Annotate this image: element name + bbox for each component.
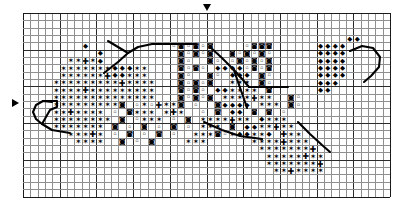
stitch-cell-cross-plus-stitch: ✚ (171, 109, 177, 115)
stitch-cell-filled-diamond-stitch: ◆ (237, 65, 243, 71)
grid-line-horizontal (23, 20, 390, 21)
stitch-cell-open-star-stitch: ✶ (83, 65, 89, 71)
grid-line-vertical (207, 13, 208, 197)
stitch-cell-filled-diamond-stitch: ◆ (237, 73, 243, 79)
stitch-cell-open-square-stitch: ▫ (237, 51, 243, 57)
stitch-cell-open-square-stitch: ▫ (244, 58, 250, 64)
stitch-cell-filled-diamond-stitch: ◆ (252, 124, 258, 130)
stitch-cell-open-star-stitch: ✶ (90, 95, 96, 101)
stitch-cell-cross-plus-stitch: ✚ (230, 117, 236, 123)
stitch-cell-open-square-stitch: ▫ (127, 124, 133, 130)
stitch-cell-filled-diamond-stitch: ◆ (230, 73, 236, 79)
stitch-cell-filled-diamond-stitch: ◆ (127, 65, 133, 71)
stitch-cell-open-star-stitch: ✶ (266, 139, 272, 145)
stitch-cell-open-star-stitch: ✶ (185, 139, 191, 145)
stitch-cell-filled-diamond-stitch: ◆ (266, 131, 272, 137)
stitch-cell-open-star-stitch: ✶ (259, 102, 265, 108)
stitch-cell-hatched-block-stitch: ◙ (193, 95, 199, 101)
stitch-cell-hatched-block-stitch: ◙ (208, 73, 214, 79)
stitch-cell-open-star-stitch: ✶ (281, 146, 287, 152)
stitch-cell-filled-diamond-stitch: ◆ (318, 51, 324, 57)
stitch-cell-filled-diamond-stitch: ◆ (222, 102, 228, 108)
stitch-cell-open-star-stitch: ✶ (119, 87, 125, 93)
stitch-cell-open-star-stitch: ✶ (68, 65, 74, 71)
stitch-cell-open-square-stitch: ▫ (185, 51, 191, 57)
stitch-cell-cross-plus-stitch: ✚ (274, 124, 280, 130)
stitch-cell-filled-diamond-stitch: ◆ (332, 65, 338, 71)
stitch-cell-open-star-stitch: ✶ (75, 80, 81, 86)
stitch-cell-open-star-stitch: ✶ (68, 73, 74, 79)
stitch-cell-open-square-stitch: ▫ (281, 109, 287, 115)
stitch-cell-hatched-block-stitch: ◙ (208, 58, 214, 64)
stitch-cell-filled-diamond-stitch: ◆ (97, 51, 103, 57)
stitch-cell-open-star-stitch: ✶ (112, 95, 118, 101)
stitch-cell-open-star-stitch: ✶ (230, 87, 236, 93)
stitch-cell-open-star-stitch: ✶ (61, 109, 67, 115)
stitch-cell-hatched-block-stitch: ◙ (193, 80, 199, 86)
stitch-cell-open-star-stitch: ✶ (303, 168, 309, 174)
stitch-cell-hatched-block-stitch: ◙ (208, 51, 214, 57)
stitch-cell-open-star-stitch: ✶ (288, 153, 294, 159)
stitch-cell-filled-diamond-stitch: ◆ (340, 51, 346, 57)
stitch-cell-open-star-stitch: ✶ (259, 146, 265, 152)
stitch-cell-open-star-stitch: ✶ (75, 109, 81, 115)
stitch-cell-filled-diamond-stitch: ◆ (332, 73, 338, 79)
stitch-cell-open-star-stitch: ✶ (288, 131, 294, 137)
stitch-cell-hatched-block-stitch: ◙ (259, 80, 265, 86)
stitch-cell-filled-diamond-stitch: ◆ (237, 102, 243, 108)
stitch-cell-cross-plus-stitch: ✚ (90, 131, 96, 137)
stitch-cell-open-square-stitch: ▫ (222, 131, 228, 137)
stitch-cell-hatched-block-stitch: ◙ (127, 109, 133, 115)
stitch-cell-open-square-stitch: ▫ (259, 65, 265, 71)
stitch-cell-filled-diamond-stitch: ◆ (112, 73, 118, 79)
stitch-cell-open-star-stitch: ✶ (105, 80, 111, 86)
grid-line-vertical (184, 13, 185, 197)
stitch-cell-filled-diamond-stitch: ◆ (230, 109, 236, 115)
stitch-cell-cross-plus-stitch: ✚ (318, 161, 324, 167)
stitch-cell-open-star-stitch: ✶ (61, 87, 67, 93)
stitch-cell-open-square-stitch: ▫ (112, 109, 118, 115)
stitch-cell-open-star-stitch: ✶ (134, 65, 140, 71)
stitch-cell-filled-diamond-stitch: ◆ (259, 117, 265, 123)
stitch-cell-open-star-stitch: ✶ (105, 87, 111, 93)
stitch-cell-open-star-stitch: ✶ (112, 87, 118, 93)
stitch-cell-hatched-block-stitch: ◙ (178, 95, 184, 101)
stitch-cell-open-star-stitch: ✶ (274, 102, 280, 108)
stitch-cell-open-star-stitch: ✶ (281, 117, 287, 123)
stitch-cell-cross-plus-stitch: ✚ (281, 139, 287, 145)
grid-line-vertical (38, 13, 39, 197)
stitch-cell-hatched-block-stitch: ◙ (149, 139, 155, 145)
stitch-cell-open-star-stitch: ✶ (68, 102, 74, 108)
stitch-cell-filled-diamond-stitch: ◆ (318, 80, 324, 86)
stitch-cell-open-star-stitch: ✶ (296, 153, 302, 159)
stitch-cell-hatched-block-stitch: ◙ (288, 95, 294, 101)
stitch-cell-filled-diamond-stitch: ◆ (325, 80, 331, 86)
stitch-cell-open-star-stitch: ✶ (127, 87, 133, 93)
stitch-cell-open-star-stitch: ✶ (90, 139, 96, 145)
stitch-cell-open-star-stitch: ✶ (90, 80, 96, 86)
stitch-cell-open-star-stitch: ✶ (266, 117, 272, 123)
stitch-cell-open-star-stitch: ✶ (134, 87, 140, 93)
stitch-cell-open-square-stitch: ▫ (200, 87, 206, 93)
grid-line-horizontal (23, 145, 390, 146)
stitch-cell-open-star-stitch: ✶ (193, 139, 199, 145)
stitch-cell-open-star-stitch: ✶ (61, 102, 67, 108)
stitch-cell-open-star-stitch: ✶ (230, 131, 236, 137)
stitch-cell-open-star-stitch: ✶ (274, 153, 280, 159)
stitch-cell-open-square-stitch: ▫ (112, 131, 118, 137)
stitch-cell-cross-plus-stitch: ✚ (105, 73, 111, 79)
stitch-cell-open-star-stitch: ✶ (90, 109, 96, 115)
stitch-cell-open-square-stitch: ▫ (171, 43, 177, 49)
stitch-cell-open-star-stitch: ✶ (149, 109, 155, 115)
stitch-cell-hatched-block-stitch: ◙ (244, 51, 250, 57)
stitch-cell-hatched-block-stitch: ◙ (230, 51, 236, 57)
stitch-cell-filled-diamond-stitch: ◆ (340, 43, 346, 49)
stitch-cell-open-star-stitch: ✶ (75, 131, 81, 137)
stitch-cell-open-star-stitch: ✶ (318, 153, 324, 159)
stitch-cell-open-star-stitch: ✶ (310, 168, 316, 174)
stitch-cell-hatched-block-stitch: ◙ (119, 102, 125, 108)
stitch-cell-open-star-stitch: ✶ (274, 168, 280, 174)
stitch-cell-open-square-stitch: ▫ (266, 73, 272, 79)
stitch-cell-open-square-stitch: ▫ (230, 58, 236, 64)
stitch-cell-open-star-stitch: ✶ (75, 124, 81, 130)
